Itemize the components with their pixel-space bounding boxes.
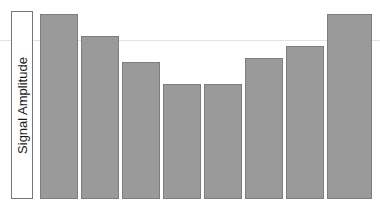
bar-chart: Signal Amplitude xyxy=(0,0,380,211)
plot-area xyxy=(0,0,380,211)
bar xyxy=(286,46,324,199)
y-axis-label: Signal Amplitude xyxy=(16,57,29,154)
bar xyxy=(40,14,78,199)
y-axis-label-box: Signal Amplitude xyxy=(11,11,33,199)
bar xyxy=(204,84,242,199)
bar xyxy=(163,84,201,199)
bar xyxy=(81,36,119,199)
bar xyxy=(245,58,283,199)
bar xyxy=(122,62,160,199)
bar xyxy=(327,14,372,199)
